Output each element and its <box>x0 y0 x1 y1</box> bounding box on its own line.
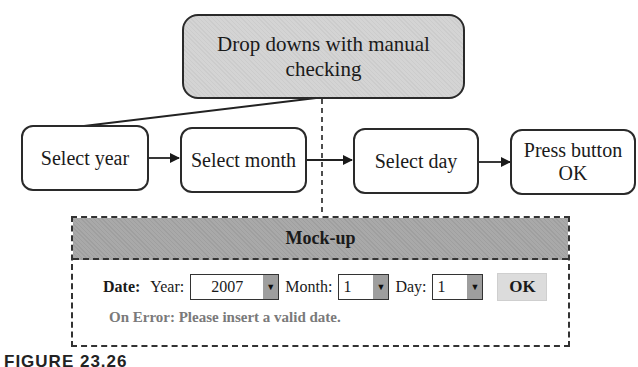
day-label: Day: <box>395 278 426 296</box>
flow-node-line1: Press button <box>524 139 622 162</box>
flow-node-select-year: Select year <box>21 125 149 191</box>
ok-button[interactable]: OK <box>497 273 547 301</box>
date-form-row: Date: Year: 2007 ▼ Month: 1 ▼ Day: 1 ▼ O… <box>103 273 547 301</box>
flow-node-select-month: Select month <box>180 127 307 193</box>
year-dropdown[interactable]: 2007 ▼ <box>190 274 279 300</box>
flow-node-label: Select day <box>375 150 458 173</box>
top-node-line1: Drop downs with manual <box>217 32 430 57</box>
month-dropdown[interactable]: 1 ▼ <box>338 274 389 300</box>
flow-node-line2: OK <box>559 162 588 185</box>
day-value: 1 <box>433 275 467 299</box>
mockup-title: Mock-up <box>285 228 355 249</box>
top-to-year-connector <box>84 98 316 126</box>
flow-node-select-day: Select day <box>353 128 479 194</box>
year-label: Year: <box>150 278 184 296</box>
error-message: On Error: Please insert a valid date. <box>109 309 341 326</box>
month-label: Month: <box>285 278 332 296</box>
flow-node-label: Select year <box>41 147 129 170</box>
flow-node-label: Select month <box>191 149 296 172</box>
figure-caption: FIGURE 23.26 <box>4 352 128 367</box>
top-node-dropdowns-manual-checking: Drop downs with manual checking <box>182 14 465 99</box>
year-value: 2007 <box>191 275 263 299</box>
mockup-panel: Mock-up Date: Year: 2007 ▼ Month: 1 ▼ Da… <box>71 216 570 347</box>
figure-number: FIGURE 23.26 <box>4 352 128 367</box>
day-dropdown[interactable]: 1 ▼ <box>432 274 483 300</box>
chevron-down-icon[interactable]: ▼ <box>263 275 278 299</box>
date-label: Date: <box>103 278 140 296</box>
flow-node-press-ok: Press button OK <box>510 129 636 195</box>
mockup-header: Mock-up <box>73 218 568 260</box>
chevron-down-icon[interactable]: ▼ <box>373 275 388 299</box>
top-node-line2: checking <box>286 57 362 82</box>
chevron-down-icon[interactable]: ▼ <box>467 275 482 299</box>
month-value: 1 <box>339 275 373 299</box>
